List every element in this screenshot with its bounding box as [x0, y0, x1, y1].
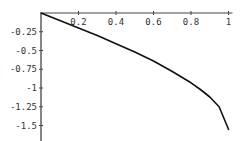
data-series — [41, 13, 229, 129]
y-tick-label: -1.25 — [10, 102, 37, 112]
data-line — [41, 13, 229, 129]
x-tick-label: 1 — [226, 17, 231, 27]
y-tick-label: -0.5 — [15, 46, 37, 56]
y-tick-label: -1 — [26, 83, 37, 93]
y-tick-label: -1.5 — [15, 121, 37, 131]
chart: 0.20.40.60.81 -0.25-0.5-0.75-1-1.25-1.5 — [0, 0, 242, 141]
axes — [41, 13, 233, 141]
x-tick-label: 0.4 — [108, 17, 124, 27]
x-tick-label: 0.6 — [145, 17, 161, 27]
x-tick-label: 0.8 — [183, 17, 199, 27]
y-tick-label: -0.75 — [10, 64, 37, 74]
y-tick-label: -0.25 — [10, 27, 37, 37]
y-axis-ticks: -0.25-0.5-0.75-1-1.25-1.5 — [10, 27, 43, 131]
